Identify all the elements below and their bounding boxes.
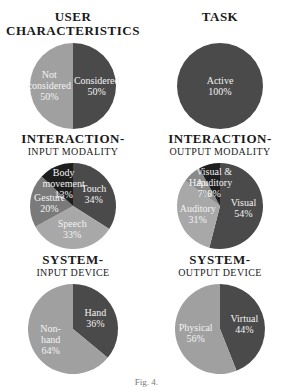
slice-name: movement (42, 178, 84, 189)
slice-percent: 100% (208, 86, 231, 97)
slice-name: hand (41, 334, 60, 345)
chart-subtitle: INPUT MODALITY (0, 146, 146, 158)
chart-title: TASK (147, 10, 293, 24)
pie-chart: Visual54%Auditory31%Haptics7%Visual &Aud… (147, 158, 293, 250)
slice-name: Non- (40, 323, 61, 334)
slice-percent: 34% (85, 194, 103, 205)
slice-name: Hand (85, 307, 107, 318)
slice-name: Physical (179, 322, 213, 333)
slice-percent: 64% (41, 345, 59, 356)
pie-chart: Considered50%Notconsidered50% (0, 38, 146, 130)
slice-name: Auditory (180, 203, 216, 214)
chart-input-device: SYSTEM- INPUT DEVICE Hand36%Non-hand64% (0, 253, 146, 375)
slice-label: Touch34% (81, 183, 106, 205)
slice-name: Not (42, 69, 57, 80)
slice-name: Touch (81, 183, 106, 194)
chart-title: INTERACTION- (147, 132, 293, 146)
slice-percent: 36% (86, 318, 104, 329)
slice-name: Visual & (196, 166, 232, 177)
slice-name: Speech (58, 218, 87, 229)
pie-chart: Active100% (147, 38, 293, 130)
slice-percent: 8% (207, 188, 220, 199)
slice-label: Hand36% (85, 307, 107, 329)
chart-title: INTERACTION- (0, 132, 146, 146)
chart-title: SYSTEM- (0, 253, 146, 267)
slice-percent: 31% (189, 214, 207, 225)
chart-output-modality: INTERACTION- OUTPUT MODALITY Visual54%Au… (147, 132, 293, 250)
slice-name: considered (28, 80, 71, 91)
slice-percent: 50% (87, 86, 105, 97)
chart-subtitle: OUTPUT DEVICE (147, 267, 293, 279)
pie-chart: Virtual44%Physical56% (147, 279, 293, 375)
slice-name: Considered (74, 75, 120, 86)
slice-percent: 56% (187, 333, 205, 344)
slice-name: Body (53, 167, 75, 178)
slice-percent: 44% (235, 324, 253, 335)
chart-title-line2 (147, 24, 293, 38)
chart-input-modality: INTERACTION- INPUT MODALITY Touch34%Spee… (0, 132, 146, 250)
chart-subtitle: OUTPUT MODALITY (147, 146, 293, 158)
slice-percent: 54% (234, 208, 252, 219)
chart-subtitle: INPUT DEVICE (0, 267, 146, 279)
chart-output-device: SYSTEM- OUTPUT DEVICE Virtual44%Physical… (147, 253, 293, 375)
slice-label: Non-hand64% (40, 323, 61, 356)
slice-name: Visual (231, 197, 257, 208)
chart-title: USER (0, 10, 146, 24)
chart-user-characteristics: USER CHARACTERISTICS Considered50%Notcon… (0, 10, 146, 130)
slice-name: Auditory (196, 177, 232, 188)
figure-caption: Fig. 4. (0, 377, 293, 387)
slice-percent: 20% (40, 203, 58, 214)
slice-percent: 13% (54, 189, 72, 200)
slice-name: Virtual (230, 313, 258, 324)
slice-label: Visual54% (231, 197, 257, 219)
chart-task: TASK Active100% (147, 10, 293, 130)
chart-title: SYSTEM- (147, 253, 293, 267)
chart-title-line2: CHARACTERISTICS (0, 24, 146, 38)
slice-label: Active100% (207, 75, 234, 97)
pie-chart: Touch34%Speech33%Gesture20%Bodymovement1… (0, 158, 146, 250)
slice-percent: 50% (40, 91, 58, 102)
pie-chart: Hand36%Non-hand64% (0, 279, 146, 375)
slice-percent: 33% (63, 229, 81, 240)
slice-name: Active (207, 75, 234, 86)
